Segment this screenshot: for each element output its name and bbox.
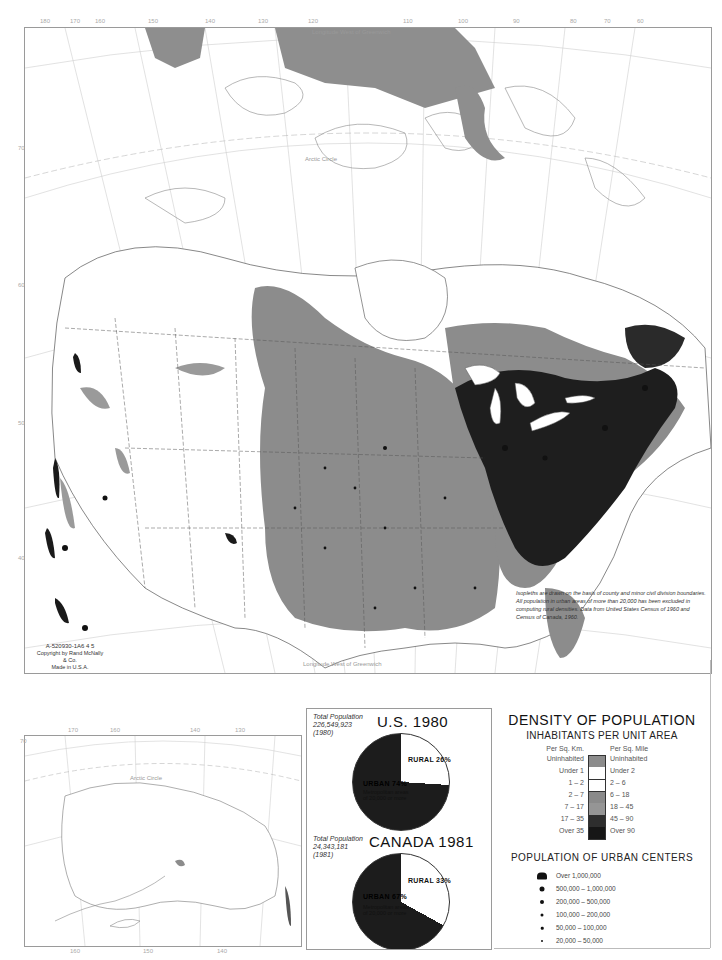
swatch-over-35 xyxy=(588,827,606,840)
alaska-inset-map xyxy=(24,735,302,947)
legend-subtitle: INHABITANTS PER UNIT AREA xyxy=(494,730,710,741)
us-pie-block: Total Population 226,549,923 (1980) U.S.… xyxy=(307,709,491,829)
main-map: Longitude West of Greenwich Longitude We… xyxy=(24,27,712,674)
canada-pie-block: Total Population 24,343,181 (1981) CANAD… xyxy=(307,831,491,949)
alaska-density-map xyxy=(25,736,301,946)
canada-urban-note: Metropolitan areas of 20,000 or more xyxy=(363,904,413,916)
canada-pie-title: CANADA 1981 xyxy=(369,833,474,850)
alaska-arctic-circle-label: Arctic Circle xyxy=(130,775,162,781)
city-dot-icon xyxy=(541,940,543,942)
map-code: A-520930-1A6 4 5 xyxy=(35,643,105,650)
city-dot-icon xyxy=(540,887,545,892)
us-urban-note: Metropolitan areas of 20,000 or more xyxy=(363,789,413,801)
urban-centers-title: POPULATION OF URBAN CENTERS xyxy=(494,852,710,863)
top-longitude-label: Longitude West of Greenwich xyxy=(312,29,391,35)
us-total-population: Total Population 226,549,923 (1980) xyxy=(313,713,363,737)
bottom-longitude-label: Longitude West of Greenwich xyxy=(303,661,382,667)
canada-urban-label: URBAN 67% xyxy=(363,893,407,900)
map-copyright: Copyright by Rand McNally & Co. xyxy=(35,650,105,664)
legend-right-border xyxy=(710,660,711,948)
swatch-7-17 xyxy=(588,803,606,815)
legend-row: 1 – 2 2 – 6 xyxy=(494,779,710,791)
legend-row: 17 – 35 45 – 90 xyxy=(494,815,710,827)
arctic-circle-label: Arctic Circle xyxy=(305,156,337,162)
city-dot-icon xyxy=(540,900,544,904)
pie-chart-panel: Total Population 226,549,923 (1980) U.S.… xyxy=(306,708,492,950)
map-source-note: Isopleths are drawn on the basis of coun… xyxy=(516,589,706,621)
legend-panel: DENSITY OF POPULATION INHABITANTS PER UN… xyxy=(494,708,710,948)
legend-row: Under 1 Under 2 xyxy=(494,767,710,779)
legend-row: Uninhabited Uninhabited xyxy=(494,755,710,767)
city-symbol-icon xyxy=(537,873,547,880)
canada-pie-chart xyxy=(352,853,450,950)
swatch-17-35 xyxy=(588,815,606,827)
legend-row: 7 – 17 18 – 45 xyxy=(494,803,710,815)
legend-row: Over 35 Over 90 xyxy=(494,827,710,839)
us-urban-label: URBAN 74% xyxy=(363,780,407,787)
legend-bottom-border xyxy=(494,948,710,949)
map-made-in: Made in U.S.A. xyxy=(35,664,105,671)
swatch-under-1 xyxy=(588,767,606,779)
canada-rural-label: RURAL 33% xyxy=(408,877,451,884)
city-dot-icon xyxy=(541,927,544,930)
us-rural-label: RURAL 26% xyxy=(408,756,451,763)
legend-title: DENSITY OF POPULATION xyxy=(494,712,710,728)
legend-row: 2 – 7 6 – 18 xyxy=(494,791,710,803)
city-dot-icon xyxy=(541,914,544,917)
us-pie-title: U.S. 1980 xyxy=(377,713,448,730)
north-america-density-map xyxy=(25,28,711,673)
map-credit: A-520930-1A6 4 5 Copyright by Rand McNal… xyxy=(35,643,105,671)
canada-total-population: Total Population 24,343,181 (1981) xyxy=(313,835,363,859)
